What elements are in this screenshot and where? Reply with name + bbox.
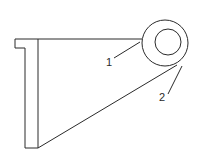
callout-1: 1 [106,42,140,68]
inner-circle [155,29,181,55]
bracket-diagonal-edge [38,65,177,148]
label-1: 1 [106,56,112,68]
leader-line-2 [168,66,182,94]
callout-2: 2 [159,66,182,103]
bracket-diagram: 1 2 [0,0,204,156]
leader-line-1 [114,42,140,58]
bushing [142,20,188,66]
label-2: 2 [159,91,165,103]
bracket-flange [15,39,38,148]
bracket-outline [15,39,177,148]
